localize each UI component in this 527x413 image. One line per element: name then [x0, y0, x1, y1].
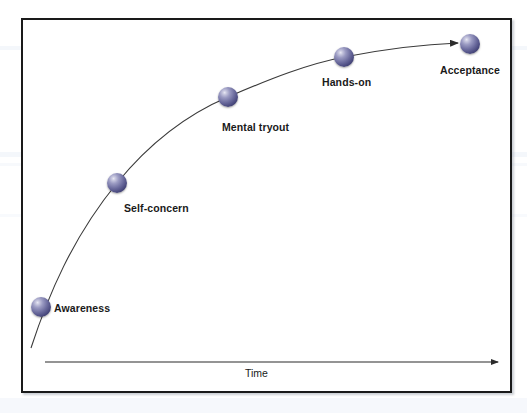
node-label-self-concern: Self-concern	[124, 202, 189, 214]
node-label-mental-tryout: Mental tryout	[222, 121, 289, 133]
x-axis-label: Time	[245, 367, 268, 379]
node-label-awareness: Awareness	[54, 302, 110, 314]
node-acceptance[interactable]	[460, 34, 480, 54]
figure-root: Awareness Self-concern Mental tryout Han…	[0, 0, 527, 413]
node-label-hands-on: Hands-on	[322, 76, 371, 88]
diagram-canvas	[0, 0, 527, 413]
node-label-acceptance: Acceptance	[440, 64, 500, 76]
node-hands-on[interactable]	[334, 47, 354, 67]
node-self-concern[interactable]	[107, 173, 127, 193]
node-awareness[interactable]	[31, 297, 51, 317]
node-mental-tryout[interactable]	[218, 87, 238, 107]
